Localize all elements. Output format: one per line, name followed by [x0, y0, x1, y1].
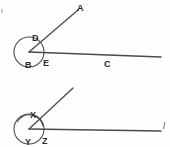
- lower-angle-figure: [14, 88, 161, 144]
- label-line-l: l: [163, 122, 165, 131]
- diagram-svg: [0, 0, 170, 147]
- upper-ray-to-A: [29, 10, 78, 52]
- label-B: B: [25, 61, 32, 70]
- lower-ray-slant: [29, 88, 73, 129]
- label-Y: Y: [25, 138, 31, 147]
- diagram-canvas: A D B E C X Y Z l: [0, 0, 170, 147]
- lower-ray-to-l: [29, 129, 161, 131]
- edge-speck: [1, 9, 3, 13]
- upper-ray-to-C: [29, 52, 161, 57]
- label-E: E: [43, 59, 49, 68]
- label-Z: Z: [42, 137, 48, 146]
- label-C: C: [104, 60, 111, 69]
- label-X: X: [30, 111, 36, 120]
- label-D: D: [32, 34, 39, 43]
- label-A: A: [77, 4, 84, 13]
